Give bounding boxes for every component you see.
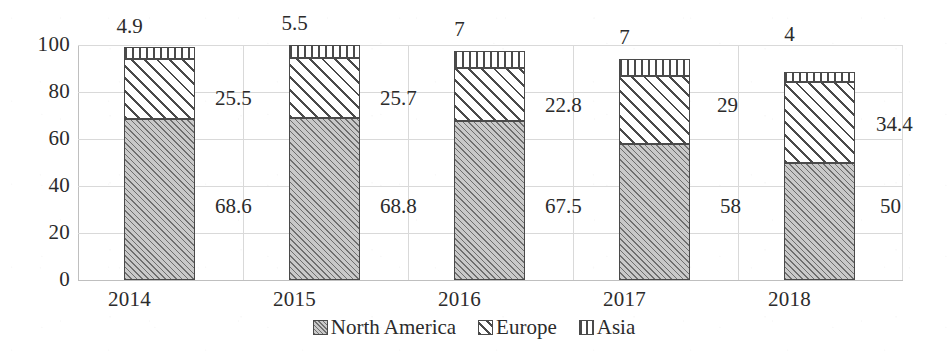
bar-segment-north-america-2016[interactable]	[454, 121, 525, 280]
x-tick-2018: 2018	[749, 288, 830, 310]
data-label-asia-2015: 5.5	[259, 13, 330, 34]
y-tick-100: 100	[8, 34, 70, 55]
stacked-bar-chart: 100 80 60 40 20 0	[0, 0, 948, 352]
bar-stack-2018[interactable]	[784, 72, 855, 280]
bar-segment-asia-2015[interactable]	[289, 45, 360, 58]
data-label-asia-2017: 7	[589, 27, 660, 48]
y-tick-60: 60	[8, 128, 70, 149]
bar-stack-2016[interactable]	[454, 51, 525, 280]
data-label-north-america-2017: 58	[720, 196, 741, 217]
bar-segment-asia-2016[interactable]	[454, 51, 525, 68]
data-label-north-america-2016: 67.5	[545, 196, 582, 217]
legend-item-europe[interactable]: Europe	[478, 317, 557, 338]
gridline-100	[78, 45, 903, 46]
bar-segment-north-america-2017[interactable]	[619, 144, 690, 280]
bar-segment-europe-2014[interactable]	[124, 59, 195, 119]
category-separator-1	[243, 45, 244, 280]
legend-label-north-america: North America	[331, 317, 456, 338]
legend-swatch-asia-icon	[579, 320, 594, 335]
category-separator-4	[738, 45, 739, 280]
bar-segment-north-america-2018[interactable]	[784, 163, 855, 281]
y-tick-40: 40	[8, 175, 70, 196]
legend-item-north-america[interactable]: North America	[313, 317, 456, 338]
plot-right-edge	[902, 45, 903, 280]
data-label-europe-2016: 22.8	[545, 95, 582, 116]
data-label-north-america-2014: 68.6	[215, 196, 252, 217]
data-label-asia-2014: 4.9	[94, 16, 165, 37]
y-tick-20: 20	[8, 222, 70, 243]
legend-item-asia[interactable]: Asia	[579, 317, 636, 338]
bar-segment-north-america-2014[interactable]	[124, 119, 195, 280]
x-tick-2015: 2015	[254, 288, 335, 310]
data-label-europe-2018: 34.4	[876, 114, 913, 135]
bar-segment-asia-2017[interactable]	[619, 59, 690, 76]
bar-segment-europe-2016[interactable]	[454, 68, 525, 122]
bar-segment-asia-2018[interactable]	[784, 72, 855, 81]
chart-legend: North America Europe Asia	[0, 317, 948, 338]
y-axis-tick-labels: 100 80 60 40 20 0	[0, 45, 70, 280]
category-separator-2	[408, 45, 409, 280]
data-label-europe-2015: 25.7	[380, 88, 417, 109]
bar-stack-2017[interactable]	[619, 59, 690, 280]
y-tick-0: 0	[8, 269, 70, 290]
x-tick-2017: 2017	[584, 288, 665, 310]
bar-segment-asia-2014[interactable]	[124, 47, 195, 59]
data-label-europe-2017: 29	[717, 95, 738, 116]
bar-stack-2014[interactable]	[124, 47, 195, 280]
x-tick-2016: 2016	[419, 288, 500, 310]
category-separator-3	[573, 45, 574, 280]
bar-stack-2015[interactable]	[289, 45, 360, 280]
bar-segment-north-america-2015[interactable]	[289, 118, 360, 280]
data-label-asia-2016: 7	[424, 19, 495, 40]
plot-area	[78, 45, 903, 280]
legend-label-asia: Asia	[597, 317, 636, 338]
y-tick-80: 80	[8, 81, 70, 102]
data-label-europe-2014: 25.5	[215, 88, 252, 109]
bar-segment-europe-2018[interactable]	[784, 82, 855, 163]
bar-segment-europe-2017[interactable]	[619, 76, 690, 144]
data-label-north-america-2018: 50	[880, 196, 901, 217]
legend-swatch-north-america-icon	[313, 320, 328, 335]
legend-label-europe: Europe	[496, 317, 557, 338]
x-tick-2014: 2014	[89, 288, 170, 310]
data-label-asia-2018: 4	[754, 24, 825, 45]
bar-segment-europe-2015[interactable]	[289, 58, 360, 118]
legend-swatch-europe-icon	[478, 320, 493, 335]
x-axis-baseline	[78, 280, 903, 281]
data-label-north-america-2015: 68.8	[380, 196, 417, 217]
